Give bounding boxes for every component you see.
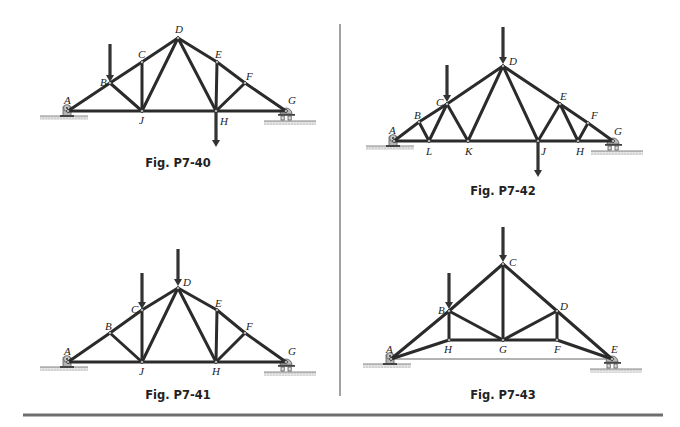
joint-f [244,332,247,335]
joint-a [67,361,70,364]
joint-c [446,103,449,106]
node-label-d: D [559,300,568,312]
member-fg [245,333,286,362]
joint-g [285,110,288,113]
node-label-j: J [139,114,145,126]
node-label-f: F [245,320,253,332]
figure-caption: Fig. P7-40 [145,156,211,170]
joint-d [502,65,505,68]
load-arrow-icon [445,273,453,309]
load-arrow-icon [499,227,507,262]
node-label-e: E [610,343,618,355]
member-bj [110,83,142,111]
joint-j [141,110,144,113]
load-arrow-icon [499,27,507,64]
node-label-l: L [425,145,432,157]
node-label-d: D [182,276,191,288]
node-label-e: E [214,48,222,60]
joint-g [612,140,615,143]
load-arrow-icon [212,112,220,147]
member-ck [447,104,468,141]
member-ab [391,311,449,359]
member-fh [578,123,588,141]
load-arrow-icon [443,65,451,102]
node-label-b: B [100,76,107,88]
member-bg [449,311,503,340]
joint-h [215,110,218,113]
joint-l [428,140,431,143]
member-cd [503,264,557,311]
figure-caption: Fig. P7-41 [145,388,211,402]
fig-p7-43: ABCDEHGFFig. P7-43 [363,227,642,402]
node-label-a: A [385,343,393,355]
fig-p7-41: ABCDEFGJHFig. P7-41 [40,249,316,402]
member-ah [391,340,449,359]
node-label-d: D [174,23,183,35]
node-label-b: B [105,320,112,332]
joint-a [393,140,396,143]
joint-f [556,339,559,342]
load-arrow-icon [106,44,114,82]
node-label-h: H [575,145,585,157]
joint-b [418,121,421,124]
joint-e [611,358,614,361]
node-label-g: G [288,345,296,357]
node-label-c: C [509,256,517,268]
node-label-h: H [211,365,221,377]
node-label-h: H [443,343,453,355]
node-label-b: B [438,304,445,316]
node-label-b: B [414,109,421,121]
member-ej [538,104,560,141]
node-label-d: D [508,55,517,67]
member-bj [110,333,142,362]
joint-d [556,310,559,313]
joint-d [177,37,180,40]
joint-j [537,140,540,143]
layout-lines [23,24,663,415]
node-label-k: K [464,145,473,157]
figures: ABCDEFGJHFig. P7-40ABCDEFGLKJHFig. P7-42… [40,23,643,402]
figure-caption: Fig. P7-43 [470,388,536,402]
joint-f [587,122,590,125]
joint-f [244,82,247,85]
fig-p7-42: ABCDEFGLKJHFig. P7-42 [366,27,643,198]
node-label-a: A [63,94,71,106]
joint-h [448,339,451,342]
member-fg [245,83,286,111]
joint-h [215,361,218,364]
member-bc [449,264,503,311]
joint-c [502,263,505,266]
node-label-g: G [288,94,296,106]
load-arrow-icon [174,249,182,286]
member-bc [110,62,142,83]
member-ef [217,62,245,83]
joint-e [216,309,219,312]
node-label-a: A [63,345,71,357]
member-eh [216,62,217,111]
node-label-h: H [219,115,229,127]
member-fe [557,340,612,359]
member-de [557,311,612,359]
joint-h [577,140,580,143]
joint-a [390,358,393,361]
node-label-g: G [499,343,507,355]
figure-caption: Fig. P7-42 [470,184,536,198]
node-label-e: E [559,90,567,102]
load-arrow-icon [138,273,146,309]
joint-e [559,103,562,106]
member-ab [68,333,110,362]
node-label-e: E [214,297,222,309]
node-label-f: F [590,109,598,121]
joint-g [285,361,288,364]
joint-b [109,82,112,85]
node-label-a: A [388,124,396,136]
member-fg [588,123,613,141]
node-label-c: C [138,48,146,60]
joint-e [216,61,219,64]
member-fh [216,333,245,362]
joint-k [467,140,470,143]
node-label-c: C [436,96,444,108]
fig-p7-40: ABCDEFGJHFig. P7-40 [40,23,316,170]
joint-c [141,309,144,312]
member-eh [216,310,217,362]
